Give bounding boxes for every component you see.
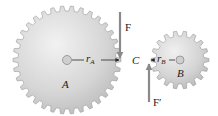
radius-a-label: rA [86, 53, 95, 66]
radius-b-label: rB [157, 53, 166, 66]
contact-point-label: C [132, 55, 139, 66]
hub-b [176, 56, 184, 64]
gear-b-label: B [177, 68, 184, 79]
radius-a-subscript: A [90, 58, 94, 66]
radius-b-subscript: B [161, 58, 165, 66]
force-f-label: F [125, 22, 131, 33]
gear-diagram [0, 0, 218, 116]
hub-a [63, 56, 72, 65]
force-f-prime-label: F′ [153, 97, 162, 108]
gear-a-label: A [62, 79, 69, 90]
